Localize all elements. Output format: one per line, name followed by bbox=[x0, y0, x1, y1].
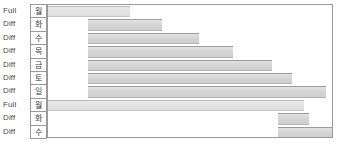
bar-row bbox=[48, 72, 332, 85]
weekday-label: 월 bbox=[31, 5, 46, 18]
schedule-bar bbox=[48, 100, 304, 111]
schedule-bar bbox=[88, 19, 162, 30]
weekday-label: 토 bbox=[31, 72, 46, 85]
backup-type-label: Diff bbox=[0, 17, 30, 30]
bar-row bbox=[48, 18, 332, 31]
bar-row bbox=[48, 59, 332, 72]
backup-type-label: Diff bbox=[0, 84, 30, 97]
schedule-bar bbox=[278, 113, 309, 124]
backup-type-label: Full bbox=[0, 4, 30, 17]
backup-type-label: Diff bbox=[0, 71, 30, 84]
bar-row bbox=[48, 32, 332, 45]
bar-row bbox=[48, 85, 332, 98]
bar-rows bbox=[48, 5, 332, 137]
bar-row bbox=[48, 99, 332, 112]
backup-type-label: Diff bbox=[0, 58, 30, 71]
schedule-bar bbox=[88, 33, 199, 44]
schedule-bar bbox=[48, 6, 130, 17]
weekday-column: 월 화 수 목 금 토 일 월 화 수 bbox=[30, 4, 47, 139]
weekday-label: 수 bbox=[31, 32, 46, 45]
backup-type-label: Diff bbox=[0, 44, 30, 57]
schedule-bar bbox=[278, 127, 332, 138]
backup-type-label: Full bbox=[0, 98, 30, 111]
bar-row bbox=[48, 126, 332, 138]
backup-type-column: Full Diff Diff Diff Diff Diff Diff Full … bbox=[0, 4, 30, 138]
schedule-bar bbox=[88, 46, 233, 57]
backup-type-label: Diff bbox=[0, 125, 30, 138]
bar-row bbox=[48, 45, 332, 58]
backup-type-label: Diff bbox=[0, 111, 30, 124]
schedule-bar bbox=[88, 73, 292, 84]
schedule-bar bbox=[88, 60, 273, 71]
weekday-label: 화 bbox=[31, 18, 46, 31]
backup-type-label: Diff bbox=[0, 31, 30, 44]
bar-row bbox=[48, 112, 332, 125]
weekday-label: 목 bbox=[31, 45, 46, 58]
schedule-bar bbox=[88, 86, 327, 97]
weekday-label: 금 bbox=[31, 59, 46, 72]
weekday-label: 월 bbox=[31, 99, 46, 112]
bar-row bbox=[48, 5, 332, 18]
bar-plot-area bbox=[47, 4, 333, 138]
weekday-label: 일 bbox=[31, 85, 46, 98]
weekday-label: 수 bbox=[31, 126, 46, 139]
weekday-label: 화 bbox=[31, 112, 46, 125]
backup-schedule-chart: Full Diff Diff Diff Diff Diff Diff Full … bbox=[0, 0, 338, 144]
